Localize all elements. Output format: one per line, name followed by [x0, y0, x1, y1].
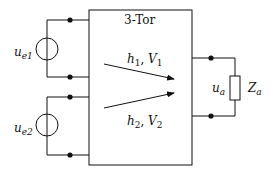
terminal-dot-icon	[67, 152, 72, 157]
output-port-circuit: ua Za	[192, 55, 262, 118]
three-port-block: 3-Tor	[89, 10, 192, 165]
terminal-dot-icon	[67, 94, 72, 99]
terminal-dot-icon	[208, 55, 213, 60]
block-label: 3-Tor	[124, 13, 156, 27]
terminal-dot-icon	[208, 113, 213, 118]
arrow-right-icon	[104, 93, 174, 108]
transfer-arrow-2: h2, V2	[104, 93, 174, 130]
terminal-dot-icon	[67, 17, 72, 22]
port-1-source-circuit: ue1	[14, 17, 89, 79]
terminal-dot-icon	[67, 74, 72, 79]
impedance-resistor-icon	[230, 76, 240, 100]
load-impedance-label: Za	[247, 81, 262, 97]
arrow-2-label: h2, V2	[127, 114, 163, 130]
output-voltage-label: ua	[212, 81, 225, 97]
voltage-source-1-icon	[36, 38, 58, 60]
transfer-arrow-1: h1, V1	[104, 52, 174, 79]
port-2-source-circuit: ue2	[14, 94, 89, 157]
source-2-label: ue2	[14, 121, 33, 137]
voltage-source-2-icon	[36, 114, 58, 136]
source-1-label: ue1	[14, 45, 33, 61]
circuit-diagram: 3-Tor ue1 ue2 h1, V1 h2, V2	[0, 0, 275, 172]
arrow-1-label: h1, V1	[127, 52, 163, 68]
